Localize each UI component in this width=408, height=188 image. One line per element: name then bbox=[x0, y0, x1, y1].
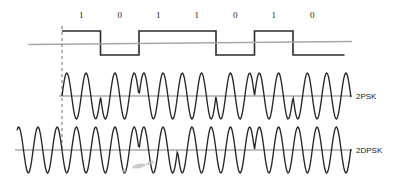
dpsk-trace-label: 2DPSK bbox=[356, 146, 383, 155]
bit-label-group: 1011010 bbox=[79, 10, 315, 20]
bit-label-0: 1 bbox=[79, 10, 84, 20]
bit-label-2: 1 bbox=[156, 10, 161, 20]
waveform-figure: 1011010 2PSK 2DPSK bbox=[0, 0, 408, 188]
bit-label-3: 1 bbox=[195, 10, 200, 20]
bit-label-6: 0 bbox=[310, 10, 315, 20]
bit-label-5: 1 bbox=[272, 10, 277, 20]
baseband-axis-line bbox=[28, 42, 352, 45]
bit-label-1: 0 bbox=[118, 10, 123, 20]
psk-trace-label: 2PSK bbox=[356, 92, 377, 101]
bit-label-4: 0 bbox=[233, 10, 238, 20]
